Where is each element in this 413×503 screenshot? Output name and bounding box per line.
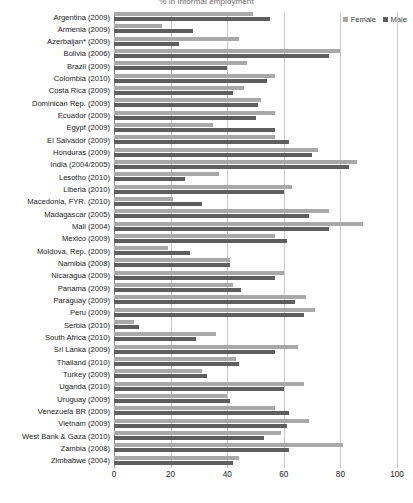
bar-row	[114, 357, 397, 369]
bar-female	[114, 369, 202, 373]
bar-female	[114, 160, 357, 164]
bar-male	[114, 399, 230, 403]
bar-row	[114, 308, 397, 320]
bar-female	[114, 283, 233, 287]
bar-row	[114, 111, 397, 123]
bar-male	[114, 227, 329, 231]
plot-area	[114, 12, 397, 468]
bar-row	[114, 246, 397, 258]
bar-rows	[114, 12, 397, 468]
bar-male	[114, 17, 270, 21]
bar-male	[114, 374, 207, 378]
bar-female	[114, 61, 247, 65]
category-label: Panama (2009)	[58, 284, 110, 293]
category-label: Egypt (2009)	[67, 123, 110, 132]
category-label: Bolivia (2006)	[64, 49, 110, 58]
bar-male	[114, 103, 258, 107]
category-label: Lesotho (2010)	[59, 173, 110, 182]
bar-female	[114, 37, 239, 41]
bar-female	[114, 172, 219, 176]
bar-male	[114, 424, 287, 428]
bar-row	[114, 419, 397, 431]
category-label: South Africa (2010)	[45, 333, 110, 342]
bar-row	[114, 258, 397, 270]
bar-row	[114, 61, 397, 73]
bar-row	[114, 431, 397, 443]
bar-male	[114, 362, 239, 366]
category-label: Sri Lanka (2009)	[54, 345, 110, 354]
x-tick-0: 0	[112, 470, 117, 479]
bar-female	[114, 332, 216, 336]
bar-male	[114, 263, 230, 267]
bar-female	[114, 258, 230, 262]
bar-male	[114, 387, 284, 391]
bar-female	[114, 197, 173, 201]
category-label: Costa Rica (2009)	[49, 86, 110, 95]
category-label: Uganda (2010)	[59, 382, 110, 391]
bar-female	[114, 295, 306, 299]
bar-row	[114, 332, 397, 344]
bar-row	[114, 295, 397, 307]
bar-row	[114, 148, 397, 160]
category-label: Macedonia, FYR. (2010)	[27, 197, 110, 206]
bar-male	[114, 448, 289, 452]
bar-female	[114, 185, 292, 189]
bar-female	[114, 394, 227, 398]
bar-female	[114, 382, 304, 386]
category-label: Honduras (2009)	[53, 148, 110, 157]
category-label: Thailand (2010)	[57, 358, 110, 367]
bar-female	[114, 345, 298, 349]
category-label: Venezuela BR (2009)	[38, 407, 110, 416]
bar-row	[114, 271, 397, 283]
bar-female	[114, 406, 275, 410]
bar-female	[114, 320, 134, 324]
x-axis: 020406080100	[114, 468, 397, 482]
x-tick-80: 80	[336, 470, 345, 479]
bar-male	[114, 337, 196, 341]
bar-male	[114, 239, 287, 243]
bar-row	[114, 123, 397, 135]
bar-male	[114, 116, 256, 120]
category-label: Madagascar (2005)	[44, 210, 110, 219]
bar-male	[114, 461, 233, 465]
bar-row	[114, 98, 397, 110]
category-label: Zambia (2008)	[61, 444, 110, 453]
bar-female	[114, 86, 244, 90]
bar-female	[114, 246, 168, 250]
bar-female	[114, 148, 318, 152]
bar-female	[114, 419, 309, 423]
bar-row	[114, 12, 397, 24]
bar-row	[114, 382, 397, 394]
bar-male	[114, 91, 233, 95]
bar-row	[114, 86, 397, 98]
bar-row	[114, 456, 397, 468]
category-axis-labels: Argentina (2009)Armenia (2009)Azerbaijan…	[0, 12, 112, 468]
bar-female	[114, 209, 329, 213]
bar-male	[114, 436, 264, 440]
bar-row	[114, 406, 397, 418]
bar-male	[114, 276, 275, 280]
x-tick-60: 60	[279, 470, 288, 479]
bar-row	[114, 234, 397, 246]
category-label: Paraguay (2009)	[53, 296, 110, 305]
gridline-100	[397, 12, 398, 468]
category-label: Argentina (2009)	[53, 13, 110, 22]
bar-male	[114, 190, 284, 194]
bar-female	[114, 135, 275, 139]
bar-male	[114, 66, 227, 70]
bar-female	[114, 49, 340, 53]
bar-row	[114, 209, 397, 221]
bar-row	[114, 197, 397, 209]
bar-male	[114, 411, 289, 415]
bar-row	[114, 37, 397, 49]
category-label: Ecuador (2009)	[58, 111, 110, 120]
category-label: Mexico (2009)	[62, 234, 110, 243]
bar-row	[114, 320, 397, 332]
bar-male	[114, 300, 295, 304]
category-label: Zimbabwe (2004)	[51, 456, 110, 465]
bar-female	[114, 431, 281, 435]
category-label: Peru (2009)	[70, 308, 110, 317]
bar-female	[114, 24, 162, 28]
bar-female	[114, 123, 213, 127]
bar-male	[114, 79, 267, 83]
